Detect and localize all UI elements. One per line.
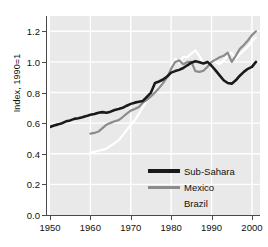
legend-label: Mexico bbox=[184, 182, 214, 193]
x-tick-mark bbox=[50, 216, 51, 220]
legend-item: Brazil bbox=[148, 195, 252, 211]
x-tick-label: 1990 bbox=[201, 222, 222, 233]
x-tick-label: 1980 bbox=[161, 222, 182, 233]
line-chart: Index, 1990=1 0.00.20.40.60.81.01.2 1950… bbox=[0, 0, 268, 247]
x-tick-mark bbox=[90, 216, 91, 220]
y-tick-mark bbox=[42, 154, 46, 155]
x-tick-mark bbox=[171, 216, 172, 220]
legend-label: Sub-Sahara bbox=[184, 166, 235, 177]
x-tick-label: 1970 bbox=[120, 222, 141, 233]
y-tick-mark bbox=[42, 123, 46, 124]
chart-legend: Sub-SaharaMexicoBrazil bbox=[148, 163, 252, 211]
legend-label: Brazil bbox=[184, 198, 208, 209]
y-axis-line bbox=[46, 16, 47, 216]
x-tick-mark bbox=[252, 216, 253, 220]
legend-item: Mexico bbox=[148, 179, 252, 195]
legend-swatch-icon bbox=[148, 186, 180, 189]
y-tick-mark bbox=[42, 184, 46, 185]
x-axis-line bbox=[46, 215, 260, 216]
y-tick-mark bbox=[42, 93, 46, 94]
legend-swatch-icon bbox=[148, 169, 180, 173]
x-tick-label: 1950 bbox=[39, 222, 60, 233]
y-tick-mark bbox=[42, 31, 46, 32]
legend-swatch-icon bbox=[148, 202, 180, 205]
series-line-brazil bbox=[90, 37, 256, 152]
x-tick-label: 1960 bbox=[80, 222, 101, 233]
x-tick-mark bbox=[131, 216, 132, 220]
x-tick-label: 2000 bbox=[241, 222, 262, 233]
y-tick-mark bbox=[42, 215, 46, 216]
y-tick-mark bbox=[42, 62, 46, 63]
x-tick-mark bbox=[212, 216, 213, 220]
legend-item: Sub-Sahara bbox=[148, 163, 252, 179]
